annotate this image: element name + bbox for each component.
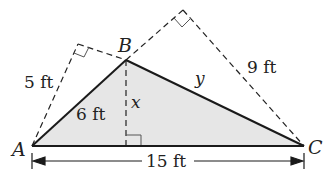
label-right-projection: 9 ft: [247, 57, 277, 77]
label-base: 15 ft: [146, 151, 186, 171]
label-ab-side: 6 ft: [76, 104, 106, 124]
vertex-label-b: B: [117, 34, 132, 56]
label-left-projection: 5 ft: [24, 72, 54, 92]
vertex-label-a: A: [10, 138, 26, 160]
label-bc-side: y: [194, 68, 205, 88]
label-altitude: x: [131, 92, 141, 112]
right-angle-marker-top: [174, 18, 191, 27]
right-angle-marker-left: [74, 47, 89, 57]
arrowhead-right-icon: [291, 157, 303, 165]
right-perpendicular-line: [126, 10, 183, 60]
triangle-diagram: A B C 5 ft 9 ft 6 ft y x 15 ft: [0, 0, 336, 185]
vertex-label-c: C: [308, 136, 323, 158]
arrowhead-left-icon: [33, 157, 45, 165]
